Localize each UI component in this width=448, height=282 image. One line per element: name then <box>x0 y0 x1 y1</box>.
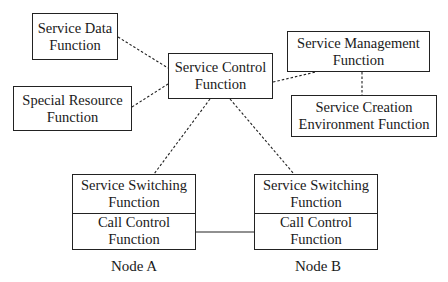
link-srf-scf <box>132 84 168 107</box>
node-b-box: Service Switching Function Call Control … <box>254 174 378 250</box>
ccf-label-line1: Call Control <box>280 214 352 231</box>
node-b-call-control-function: Call Control Function <box>255 213 377 249</box>
box-label-line1: Service Data <box>38 20 112 37</box>
ccf-label-line2: Function <box>108 231 160 248</box>
box-label-line2: Function <box>47 109 99 126</box>
box-label-line1: Service Control <box>175 59 266 76</box>
service-data-function-box: Service Data Function <box>32 13 118 60</box>
ssf-label-line2: Function <box>108 194 160 211</box>
node-a-label: Node A <box>72 258 196 275</box>
ssf-label-line2: Function <box>290 194 342 211</box>
ssf-label-line1: Service Switching <box>81 177 187 194</box>
node-a-call-control-function: Call Control Function <box>73 213 195 249</box>
box-label-line1: Special Resource <box>22 92 122 109</box>
link-scf-smf <box>273 72 316 82</box>
node-a-box: Service Switching Function Call Control … <box>72 174 196 250</box>
special-resource-function-box: Special Resource Function <box>13 86 132 131</box>
ccf-label-line1: Call Control <box>98 214 170 231</box>
service-creation-environment-function-box: Service Creation Environment Function <box>291 95 437 137</box>
box-label-line1: Service Creation <box>315 99 412 116</box>
box-label-line2: Environment Function <box>299 116 430 133</box>
link-sdf-scf <box>118 37 168 68</box>
box-label-line2: Function <box>195 76 247 93</box>
box-label-line1: Service Management <box>297 35 420 52</box>
node-b-label: Node B <box>256 258 380 275</box>
service-control-function-box: Service Control Function <box>168 53 273 99</box>
ssf-label-line1: Service Switching <box>263 177 369 194</box>
ccf-label-line2: Function <box>290 231 342 248</box>
service-management-function-box: Service Management Function <box>287 31 430 72</box>
box-label-line2: Function <box>49 37 101 54</box>
link-scf-node-a <box>154 99 210 174</box>
box-label-line2: Function <box>333 52 385 69</box>
node-a-service-switching-function: Service Switching Function <box>73 175 195 214</box>
link-scf-node-b <box>230 99 294 174</box>
intelligent-network-diagram: Service Data Function Special Resource F… <box>0 0 448 282</box>
node-b-service-switching-function: Service Switching Function <box>255 175 377 214</box>
